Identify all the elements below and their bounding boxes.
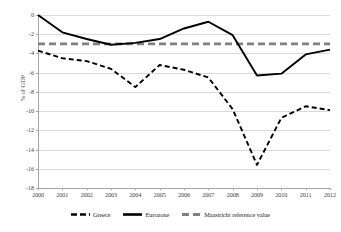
series-layer <box>38 15 330 188</box>
x-tick-label: 2011 <box>293 191 319 198</box>
x-tick-label: 2001 <box>49 191 75 198</box>
x-tick-mark <box>38 188 39 190</box>
x-tick-label: 2009 <box>244 191 270 198</box>
y-axis-title: % of GDP <box>19 58 26 118</box>
legend-item-maastricht-reference-value[interactable]: Maastricht reference value <box>182 211 270 218</box>
legend-item-greece[interactable]: Greece <box>71 211 111 218</box>
x-tick-label: 2002 <box>74 191 100 198</box>
legend-label: Maastricht reference value <box>204 211 270 218</box>
x-tick-label: 2010 <box>268 191 294 198</box>
x-tick-label: 2003 <box>98 191 124 198</box>
x-tick-mark <box>330 188 331 190</box>
legend-label: Eurozone <box>145 211 169 218</box>
x-tick-label: 2006 <box>171 191 197 198</box>
legend-item-eurozone[interactable]: Eurozone <box>123 211 169 218</box>
x-tick-label: 2012 <box>317 191 341 198</box>
x-tick-mark <box>111 188 112 190</box>
x-tick-label: 2007 <box>195 191 221 198</box>
x-tick-label: 2005 <box>147 191 173 198</box>
x-tick-label: 2000 <box>25 191 51 198</box>
deficit-line-chart: 0-2-4-6-8-10-12-14-16-18 200020012002200… <box>0 0 341 232</box>
legend-swatch-dashed <box>71 211 90 218</box>
legend-swatch-dashed-thick <box>182 211 201 218</box>
x-tick-mark <box>87 188 88 190</box>
series-line-greece <box>38 51 330 165</box>
x-tick-mark <box>135 188 136 190</box>
x-tick-mark <box>184 188 185 190</box>
x-tick-mark <box>281 188 282 190</box>
x-tick-label: 2004 <box>122 191 148 198</box>
x-tick-mark <box>257 188 258 190</box>
legend-swatch-solid <box>123 211 142 218</box>
legend-label: Greece <box>93 211 111 218</box>
x-tick-mark <box>160 188 161 190</box>
x-tick-label: 2008 <box>220 191 246 198</box>
chart-legend: GreeceEurozoneMaastricht reference value <box>0 211 341 218</box>
series-line-eurozone <box>38 15 330 76</box>
x-tick-mark <box>62 188 63 190</box>
x-tick-mark <box>306 188 307 190</box>
x-tick-mark <box>208 188 209 190</box>
x-tick-mark <box>233 188 234 190</box>
